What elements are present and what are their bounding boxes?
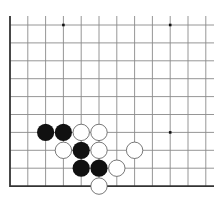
stones — [37, 124, 143, 195]
white-stone-icon — [55, 142, 71, 158]
white-stone-icon — [126, 142, 142, 158]
white-stone-icon — [73, 124, 89, 140]
grid-lines — [10, 16, 214, 186]
black-stone-icon — [37, 124, 54, 141]
star-point-icon — [169, 24, 172, 27]
white-stone-icon — [91, 124, 107, 140]
black-stone-icon — [73, 142, 90, 159]
star-point-icon — [62, 24, 65, 27]
white-stone-icon — [91, 142, 107, 158]
black-stone-icon — [73, 160, 90, 177]
white-stone-icon — [91, 178, 107, 194]
black-stone-icon — [55, 124, 72, 141]
go-board-diagram — [0, 0, 220, 206]
black-stone-icon — [90, 160, 107, 177]
star-point-icon — [169, 131, 172, 134]
white-stone-icon — [109, 160, 125, 176]
